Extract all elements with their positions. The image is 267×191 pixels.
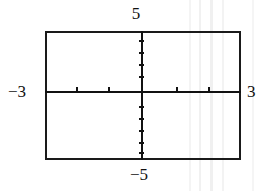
x-max-label: 3: [247, 83, 256, 100]
graph-figure: 5 −5 −3 3: [0, 0, 267, 191]
x-axis-tick: [76, 87, 78, 91]
y-axis-tick: [139, 52, 144, 54]
y-axis-tick: [139, 40, 144, 42]
y-axis-tick: [139, 64, 144, 66]
y-axis-tick: [139, 118, 144, 120]
y-axis-tick: [139, 130, 144, 132]
y-axis-tick: [139, 106, 144, 108]
y-axis-tick: [139, 152, 144, 154]
y-axis-tick: [139, 76, 144, 78]
x-axis-tick: [176, 87, 178, 91]
x-axis-line: [45, 91, 241, 93]
y-max-label: 5: [132, 5, 141, 22]
viewing-window-frame: [45, 31, 241, 160]
x-axis-tick: [108, 87, 110, 91]
y-axis-line: [141, 31, 143, 160]
x-min-label: −3: [8, 83, 26, 100]
x-axis-tick: [208, 87, 210, 91]
y-axis-tick: [139, 142, 144, 144]
y-min-label: −5: [130, 166, 148, 183]
